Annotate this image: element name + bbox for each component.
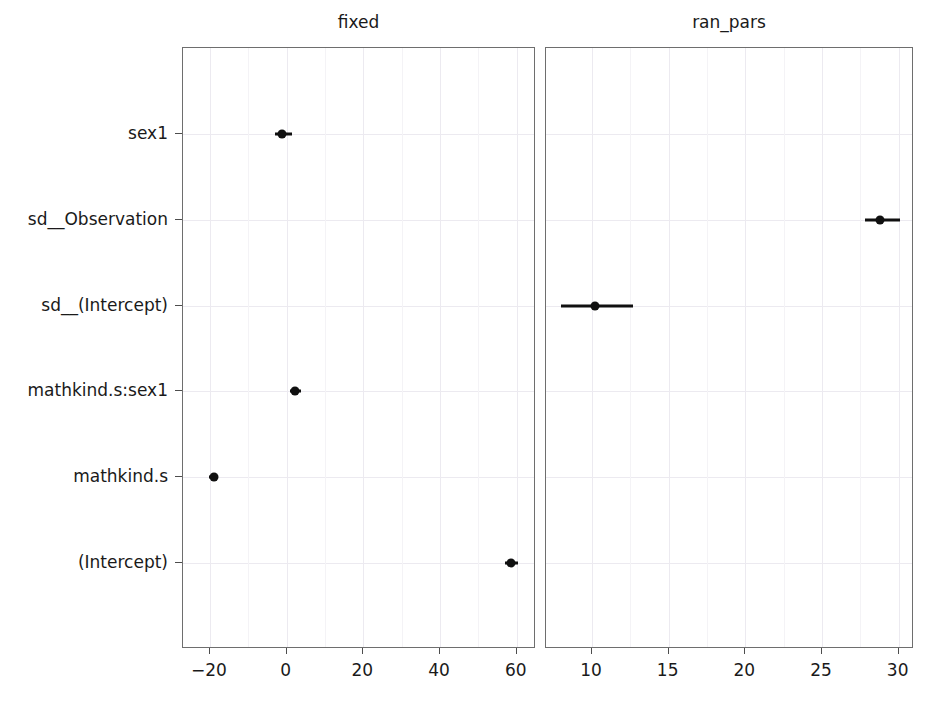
x-axis-tick-label: −20 — [191, 660, 227, 680]
estimate-point — [876, 215, 885, 224]
estimate-point — [209, 473, 218, 482]
gridline-vertical — [517, 48, 518, 647]
gridline-vertical — [745, 48, 746, 647]
x-axis-tick-label: 20 — [734, 660, 756, 680]
gridline-horizontal — [546, 477, 912, 478]
x-axis-tick — [362, 648, 363, 654]
x-axis-tick — [286, 648, 287, 654]
x-axis-tick — [439, 648, 440, 654]
gridline-horizontal — [183, 477, 534, 478]
gridline-vertical-minor — [325, 48, 326, 647]
gridline-vertical — [363, 48, 364, 647]
gridline-vertical-minor — [248, 48, 249, 647]
y-axis-tick — [175, 305, 182, 306]
gridline-vertical — [899, 48, 900, 647]
x-axis-tick-label: 30 — [887, 660, 909, 680]
x-axis-tick — [744, 648, 745, 654]
y-axis-tick — [175, 476, 182, 477]
y-axis-tick-label: sex1 — [0, 123, 168, 143]
gridline-horizontal — [183, 391, 534, 392]
gridline-horizontal — [183, 306, 534, 307]
gridline-vertical-minor — [478, 48, 479, 647]
estimate-point — [277, 129, 286, 138]
y-axis-tick — [175, 390, 182, 391]
gridline-vertical — [287, 48, 288, 647]
x-axis-tick — [668, 648, 669, 654]
y-axis-tick-label: sd__Observation — [0, 209, 168, 229]
gridline-horizontal — [183, 134, 534, 135]
estimate-point — [507, 559, 516, 568]
gridline-vertical-minor — [402, 48, 403, 647]
x-axis-tick — [516, 648, 517, 654]
gridline-horizontal — [183, 563, 534, 564]
gridline-vertical — [669, 48, 670, 647]
estimate-point — [291, 387, 300, 396]
y-axis-tick — [175, 562, 182, 563]
gridline-vertical-minor — [784, 48, 785, 647]
gridline-vertical-minor — [860, 48, 861, 647]
panel-strip-title-fixed: fixed — [182, 12, 535, 32]
gridline-horizontal — [546, 134, 912, 135]
panel-fixed — [182, 47, 535, 648]
x-axis-tick-label: 0 — [280, 660, 291, 680]
gridline-horizontal — [183, 220, 534, 221]
x-axis-tick-label: 40 — [428, 660, 450, 680]
panel-strip-title-ran-pars: ran_pars — [545, 12, 913, 32]
gridline-vertical — [440, 48, 441, 647]
x-axis-tick-label: 20 — [352, 660, 374, 680]
gridline-vertical-minor — [630, 48, 631, 647]
x-axis-tick-label: 10 — [580, 660, 602, 680]
gridline-horizontal — [546, 220, 912, 221]
gridline-vertical — [210, 48, 211, 647]
y-axis-tick-label: mathkind.s:sex1 — [0, 380, 168, 400]
y-axis-tick — [175, 219, 182, 220]
gridline-horizontal — [546, 563, 912, 564]
panel-ran-pars — [545, 47, 913, 648]
x-axis-tick-label: 60 — [505, 660, 527, 680]
gridline-vertical — [822, 48, 823, 647]
estimate-point — [591, 301, 600, 310]
x-axis-tick-label: 25 — [810, 660, 832, 680]
x-axis-tick — [591, 648, 592, 654]
x-axis-tick-label: 15 — [657, 660, 679, 680]
y-axis-tick-label: sd__(Intercept) — [0, 295, 168, 315]
gridline-horizontal — [546, 391, 912, 392]
y-axis-tick-label: mathkind.s — [0, 466, 168, 486]
coefficient-plot: fixed ran_pars (Intercept)mathkind.smath… — [0, 0, 934, 706]
y-axis-tick — [175, 133, 182, 134]
x-axis-tick — [898, 648, 899, 654]
gridline-vertical-minor — [707, 48, 708, 647]
x-axis-tick — [821, 648, 822, 654]
y-axis-tick-label: (Intercept) — [0, 552, 168, 572]
gridline-vertical — [592, 48, 593, 647]
x-axis-tick — [209, 648, 210, 654]
